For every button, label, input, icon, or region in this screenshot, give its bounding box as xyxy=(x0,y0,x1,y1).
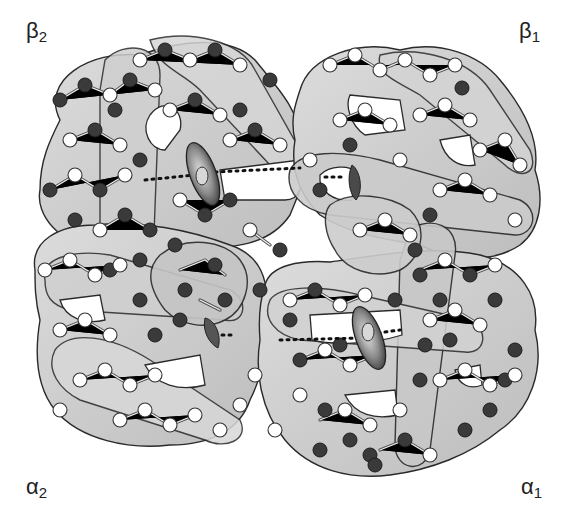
hemoglobin-diagram xyxy=(0,0,568,511)
label-alpha2: α2 xyxy=(26,476,47,500)
label-beta1: β1 xyxy=(519,20,540,44)
label-alpha1: α1 xyxy=(521,476,542,500)
label-beta2: β2 xyxy=(26,20,47,44)
